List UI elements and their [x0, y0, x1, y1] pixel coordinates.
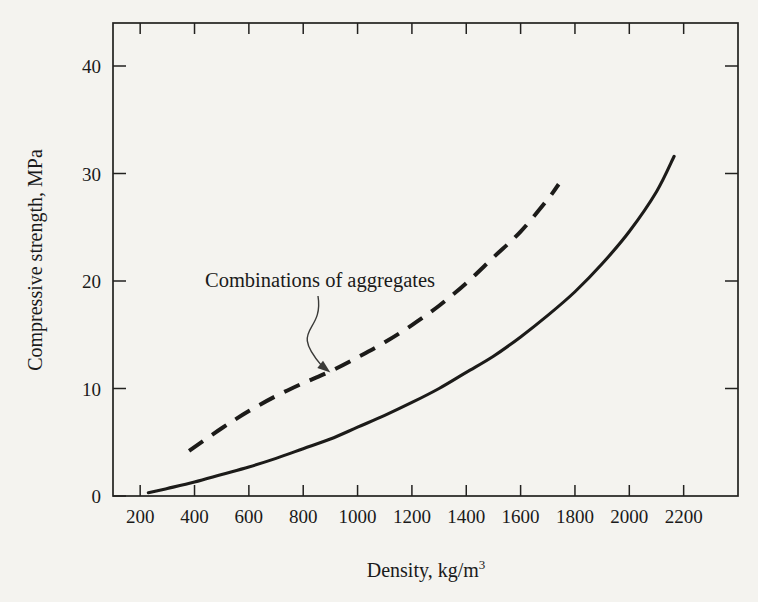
x-axis-title: Density, kg/m3: [367, 557, 486, 582]
x-tick-label: 1000: [339, 506, 377, 527]
x-tick-label: 1200: [393, 506, 431, 527]
x-tick-label: 2000: [610, 506, 648, 527]
x-axis-title-text: Density, kg/m: [367, 559, 479, 582]
x-tick-label: 600: [235, 506, 264, 527]
y-tick-label: 10: [82, 379, 101, 400]
y-tick-label: 30: [82, 164, 101, 185]
figure-container: 2004006008001000120014001600180020002200…: [0, 0, 758, 602]
x-tick-label: 800: [289, 506, 318, 527]
x-tick-label: 2200: [665, 506, 703, 527]
x-tick-label: 400: [180, 506, 209, 527]
x-tick-label: 200: [126, 506, 155, 527]
y-tick-label: 0: [92, 486, 102, 507]
y-axis-title: Compressive strength, MPa: [24, 149, 47, 371]
x-axis-title-superscript: 3: [479, 557, 486, 572]
x-tick-label: 1800: [556, 506, 594, 527]
x-tick-label: 1600: [502, 506, 540, 527]
y-tick-label: 20: [82, 271, 101, 292]
compressive-strength-vs-density-chart: 2004006008001000120014001600180020002200…: [0, 0, 758, 602]
x-tick-label: 1400: [447, 506, 485, 527]
y-tick-label: 40: [82, 56, 101, 77]
annotation-combinations-of-aggregates: Combinations of aggregates: [205, 269, 435, 292]
